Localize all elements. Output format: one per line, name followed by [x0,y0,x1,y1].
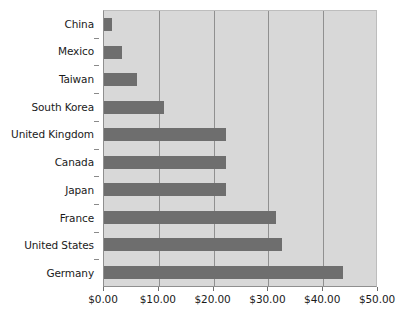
y-axis-tick-label: Germany [46,268,94,279]
bar[interactable] [104,238,282,251]
bar[interactable] [104,266,343,279]
x-axis-tick-mark [103,287,104,291]
bar[interactable] [104,128,226,141]
y-axis-tick: France [0,204,99,232]
y-axis-tick: Taiwan [0,65,99,93]
y-axis: China Mexico Taiwan South Korea United K… [0,10,99,287]
bar-row[interactable] [104,94,376,122]
bar[interactable] [104,183,226,196]
bar-row[interactable] [104,121,376,149]
y-axis-tick: United States [0,232,99,260]
y-axis-tick-label: United Kingdom [11,129,94,140]
bar-row[interactable] [104,149,376,177]
y-axis-tick: South Korea [0,93,99,121]
x-axis: $0.00$10.00$20.00$30.00$40.00$50.00 [103,287,377,322]
y-axis-tick: Germany [0,259,99,287]
bar-chart: China Mexico Taiwan South Korea United K… [0,0,397,322]
x-axis-tick-mark [213,287,214,291]
y-axis-tick-label: France [60,213,94,224]
x-axis-tick-mark [377,287,378,291]
x-axis-tick-label: $50.00 [359,293,395,305]
bar[interactable] [104,101,164,114]
y-axis-tick-label: Canada [55,157,94,168]
x-axis-tick-label: $0.00 [88,293,118,305]
bar-row[interactable] [104,66,376,94]
bar-row[interactable] [104,176,376,204]
y-axis-tick-label: Japan [65,185,94,196]
x-axis-tick-label: $40.00 [304,293,340,305]
bars-layer [104,11,376,286]
x-axis-tick-mark [158,287,159,291]
x-axis-tick-label: $20.00 [195,293,231,305]
bar-row[interactable] [104,39,376,67]
bar-row[interactable] [104,204,376,232]
bar-row[interactable] [104,11,376,39]
plot-area [103,10,377,287]
bar-row[interactable] [104,231,376,259]
y-axis-tick-label: South Korea [31,102,94,113]
bar[interactable] [104,156,226,169]
bar[interactable] [104,46,122,59]
bar[interactable] [104,211,276,224]
y-axis-tick: Mexico [0,38,99,66]
y-axis-tick: Japan [0,176,99,204]
y-axis-tick: China [0,10,99,38]
x-axis-tick-label: $30.00 [249,293,285,305]
y-axis-tick-label: Mexico [58,46,94,57]
x-axis-tick-mark [322,287,323,291]
bar[interactable] [104,18,112,31]
bar[interactable] [104,73,137,86]
x-axis-tick-label: $10.00 [140,293,176,305]
y-axis-tick-label: United States [24,240,94,251]
y-axis-tick: United Kingdom [0,121,99,149]
x-axis-tick-mark [267,287,268,291]
y-axis-tick-label: China [65,19,95,30]
bar-row[interactable] [104,259,376,287]
y-axis-tick: Canada [0,149,99,177]
y-axis-tick-label: Taiwan [59,74,94,85]
